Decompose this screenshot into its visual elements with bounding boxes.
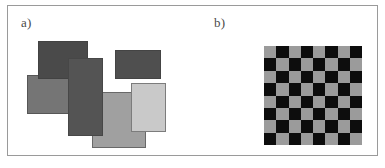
checker-cell-6-4 (313, 120, 325, 132)
checker-cell-0-5 (325, 46, 337, 58)
checker-cell-4-7 (350, 96, 362, 108)
checker-cell-1-4 (313, 58, 325, 70)
checker-cell-2-0 (264, 71, 276, 83)
checker-cell-0-6 (338, 46, 350, 58)
checker-cell-4-0 (264, 96, 276, 108)
checker-cell-3-0 (264, 83, 276, 95)
checker-cell-4-4 (313, 96, 325, 108)
checker-cell-7-1 (276, 133, 288, 145)
checker-cell-1-3 (301, 58, 313, 70)
checker-cell-3-3 (301, 83, 313, 95)
panel-a-rectangles (7, 5, 193, 156)
checker-cell-6-6 (338, 120, 350, 132)
checker-cell-6-1 (276, 120, 288, 132)
checker-cell-3-7 (350, 83, 362, 95)
checker-cell-6-2 (289, 120, 301, 132)
checker-cell-2-4 (313, 71, 325, 83)
checker-cell-3-2 (289, 83, 301, 95)
checker-cell-5-4 (313, 108, 325, 120)
checker-cell-7-7 (350, 133, 362, 145)
checker-cell-0-1 (276, 46, 288, 58)
rect-light-right (131, 83, 166, 132)
checker-cell-0-3 (301, 46, 313, 58)
checker-cell-4-3 (301, 96, 313, 108)
checker-cell-7-4 (313, 133, 325, 145)
checker-cell-5-3 (301, 108, 313, 120)
checker-cell-4-6 (338, 96, 350, 108)
panel-label-b: b) (214, 16, 225, 29)
checker-cell-2-2 (289, 71, 301, 83)
checker-cell-7-5 (325, 133, 337, 145)
checker-cell-5-5 (325, 108, 337, 120)
checker-cell-2-3 (301, 71, 313, 83)
checker-cell-1-0 (264, 58, 276, 70)
checker-cell-2-5 (325, 71, 337, 83)
checker-cell-0-2 (289, 46, 301, 58)
checker-cell-6-3 (301, 120, 313, 132)
panel-b-checkerboard (264, 46, 362, 145)
checker-cell-4-2 (289, 96, 301, 108)
checker-cell-3-4 (313, 83, 325, 95)
checker-cell-2-6 (338, 71, 350, 83)
checker-cell-5-2 (289, 108, 301, 120)
checker-cell-0-0 (264, 46, 276, 58)
checker-cell-1-6 (338, 58, 350, 70)
checker-cell-2-7 (350, 71, 362, 83)
checker-cell-7-2 (289, 133, 301, 145)
checker-cell-0-4 (313, 46, 325, 58)
checker-cell-5-7 (350, 108, 362, 120)
checker-cell-6-7 (350, 120, 362, 132)
figure-root: a) b) (0, 0, 385, 168)
rect-dark-center (68, 58, 103, 136)
checker-cell-6-5 (325, 120, 337, 132)
checker-cell-3-6 (338, 83, 350, 95)
rect-dark-top-right (115, 50, 161, 79)
checker-cell-7-0 (264, 133, 276, 145)
panel-label-a: a) (21, 16, 32, 29)
checker-cell-5-6 (338, 108, 350, 120)
checker-cell-0-7 (350, 46, 362, 58)
checker-cell-4-1 (276, 96, 288, 108)
checker-cell-1-7 (350, 58, 362, 70)
checker-cell-6-0 (264, 120, 276, 132)
checker-cell-5-0 (264, 108, 276, 120)
checker-cell-1-2 (289, 58, 301, 70)
checker-cell-7-6 (338, 133, 350, 145)
checker-cell-5-1 (276, 108, 288, 120)
checker-cell-3-1 (276, 83, 288, 95)
checker-cell-4-5 (325, 96, 337, 108)
checker-cell-1-1 (276, 58, 288, 70)
checker-cell-3-5 (325, 83, 337, 95)
checker-cell-1-5 (325, 58, 337, 70)
checker-cell-7-3 (301, 133, 313, 145)
checker-cell-2-1 (276, 71, 288, 83)
